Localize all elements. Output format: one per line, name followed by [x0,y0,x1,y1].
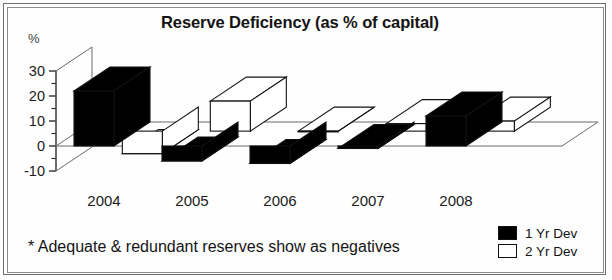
legend-item-2-yr-dev: 2 Yr Dev [498,242,577,260]
y-tick-labels: 3020100-10 [24,63,45,179]
svg-text:10: 10 [29,113,45,129]
x-tick-labels: 20042005200620072008 [87,192,472,209]
chart-legend: 1 Yr Dev 2 Yr Dev [498,224,577,260]
svg-text:0: 0 [37,138,45,154]
bars-layer [74,67,550,164]
axis-layer [49,71,56,171]
svg-text:2006: 2006 [263,192,296,209]
legend-label-2-yr-dev: 2 Yr Dev [525,244,577,259]
svg-text:2005: 2005 [175,192,208,209]
legend-label-1-yr-dev: 1 Yr Dev [525,226,577,241]
legend-swatch-2-yr-dev [498,244,517,258]
legend-swatch-1-yr-dev [498,226,517,240]
chart-footnote: * Adequate & redundant reserves show as … [28,238,400,256]
svg-text:2008: 2008 [439,192,472,209]
svg-text:2007: 2007 [351,192,384,209]
svg-text:30: 30 [29,63,45,79]
svg-text:-10: -10 [24,163,45,179]
chart-figure: Reserve Deficiency (as % of capital) % 3… [0,0,612,280]
legend-item-1-yr-dev: 1 Yr Dev [498,224,577,242]
svg-text:20: 20 [29,88,45,104]
svg-text:2004: 2004 [87,192,120,209]
